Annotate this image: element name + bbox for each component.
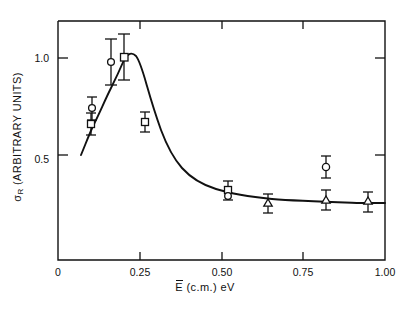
data-point-triangle	[263, 194, 273, 213]
data-point-square	[140, 112, 150, 132]
y-tick-label-1: 1.0	[34, 52, 49, 64]
data-point-square	[118, 34, 130, 80]
x-axis-units: (c.m.) eV	[183, 281, 235, 293]
x-tick-label-1: 0.25	[130, 266, 151, 278]
y-axis-subscript: R	[16, 188, 25, 194]
x-axis-ticks	[140, 252, 303, 260]
x-axis-ticks-top	[140, 21, 303, 29]
data-point-square	[86, 113, 96, 135]
x-tick-label-3: 0.75	[293, 266, 314, 278]
data-point-circle	[225, 193, 232, 200]
resonance-cross-section-plot: 0.5 1.0 0 0.25 0.50 0.75 1.00	[0, 0, 410, 314]
data-point-circle	[87, 97, 97, 120]
x-tick-label-2: 0.50	[212, 266, 233, 278]
y-tick-label-0: 0.5	[34, 153, 49, 165]
y-axis-title: σR (ARBITRARY UNITS)	[11, 37, 25, 237]
y-axis-units: (ARBITRARY UNITS)	[11, 72, 23, 188]
x-axis-title: E (c.m.) eV	[0, 281, 410, 293]
x-axis-symbol: E	[175, 281, 183, 293]
x-tick-label-0: 0	[55, 266, 61, 278]
x-tick-label-4: 1.00	[375, 266, 396, 278]
figure-container: 0.5 1.0 0 0.25 0.50 0.75 1.00 E (c.m.) e…	[0, 0, 410, 314]
data-point-circle	[321, 156, 331, 178]
data-point-triangle	[363, 192, 373, 212]
y-axis-symbol: σ	[11, 195, 23, 202]
y-axis-ticks	[58, 58, 385, 155]
plot-frame	[58, 21, 385, 260]
data-point-triangle	[321, 190, 331, 210]
